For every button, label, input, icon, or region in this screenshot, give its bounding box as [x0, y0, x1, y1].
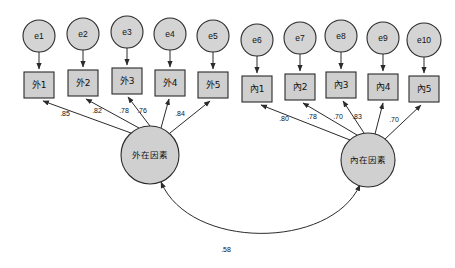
error-nodes: e1 e2 e3 e4 e5 e6 e7 e8 e9 e10 [23, 16, 441, 57]
loading-path-nei5 [384, 105, 421, 140]
indicator-label-wai4: 外4 [163, 77, 178, 88]
error-label-e7: e7 [295, 33, 305, 43]
indicator-label-wai1: 外1 [32, 79, 47, 90]
indicator-label-nei4: 內4 [376, 82, 391, 92]
factor-nodes: 外在因素 內在因素 [121, 126, 395, 187]
error-label-e5: e5 [208, 31, 218, 41]
error-label-e10: e10 [417, 35, 431, 45]
loading-label-nei2: .78 [307, 113, 317, 120]
loading-label-wai3: .78 [119, 107, 129, 114]
loading-path-wai5 [170, 101, 210, 133]
loading-path-wai1 [43, 101, 131, 133]
covariance-label: .58 [221, 246, 231, 253]
loading-path-wai4 [161, 99, 169, 128]
error-label-e4: e4 [165, 29, 175, 39]
loading-label-wai4: .76 [137, 107, 147, 114]
error-label-e2: e2 [78, 29, 88, 39]
indicator-nodes: 外1 外2 外3 外4 外5 內1 內2 內3 內4 內5 [24, 68, 439, 102]
sem-diagram-svg: e1 e2 e3 e4 e5 e6 e7 e8 e9 e10 外1 外2 外3 [0, 0, 455, 268]
indicator-label-nei3: 內3 [334, 80, 349, 90]
loading-label-nei4: .83 [352, 113, 362, 120]
covariance-path [161, 182, 360, 233]
indicator-label-wai2: 外2 [76, 77, 91, 88]
error-label-e3: e3 [122, 27, 132, 37]
error-label-e9: e9 [378, 33, 388, 43]
loading-label-wai1: .85 [60, 110, 70, 117]
indicator-label-nei1: 內1 [250, 84, 265, 94]
loading-label-nei1: .80 [279, 115, 289, 122]
factor-label-external: 外在因素 [132, 150, 168, 160]
loading-label-wai2: .82 [92, 107, 102, 114]
loading-path-wai2 [86, 99, 139, 128]
loading-path-nei4 [375, 103, 383, 134]
sem-diagram-canvas: e1 e2 e3 e4 e5 e6 e7 e8 e9 e10 外1 外2 外3 [0, 0, 455, 268]
loading-label-nei5: .70 [389, 116, 399, 123]
indicator-label-wai3: 外3 [120, 75, 135, 86]
indicator-label-wai5: 外5 [206, 79, 221, 90]
indicator-label-nei2: 內2 [293, 82, 308, 92]
error-label-e1: e1 [34, 31, 44, 41]
factor-label-internal: 內在因素 [350, 155, 386, 165]
indicator-label-nei5: 內5 [417, 84, 432, 94]
error-label-e6: e6 [252, 35, 262, 45]
loading-label-wai5: .84 [175, 110, 185, 117]
loading-label-nei3: .70 [333, 113, 343, 120]
error-label-e8: e8 [336, 31, 346, 41]
error-to-indicator-paths [39, 48, 424, 73]
